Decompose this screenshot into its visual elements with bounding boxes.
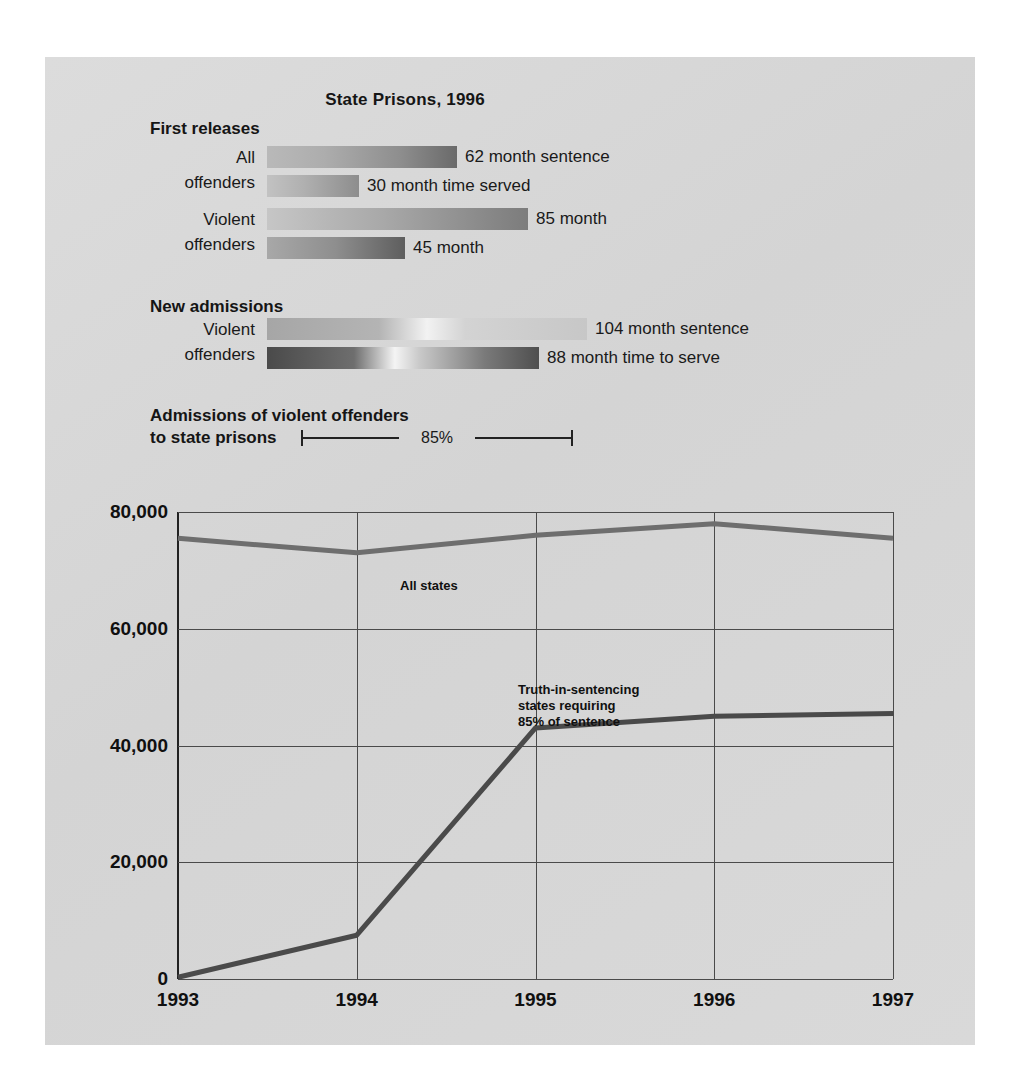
plot-area: 020,00040,00060,00080,000 19931994199519… (178, 512, 893, 979)
series-label-all-states: All states (400, 578, 458, 594)
bar-violent-offenders-sentence (267, 208, 528, 230)
bar-new-admissions-sentence (267, 318, 587, 340)
figure-panel: State Prisons, 1996 First releases All o… (45, 57, 975, 1045)
x-tick-label-1994: 1994 (336, 989, 378, 1011)
y-tick-label-0: 0 (157, 968, 168, 990)
x-tick-label-1997: 1997 (872, 989, 914, 1011)
y-tick-label-20000: 20,000 (110, 851, 168, 873)
row-label-violent-offenders-releases: Violent offenders (100, 207, 255, 257)
bar-value-all-offenders-sentence: 62 month sentence (465, 146, 610, 168)
line-chart-block: Admissions of violent offenders to state… (45, 387, 975, 1027)
y-tick-label-40000: 40,000 (110, 735, 168, 757)
y-tick-label-60000: 60,000 (110, 618, 168, 640)
series-lines (178, 512, 893, 979)
bar-value-new-admissions-time-to-serve: 88 month time to serve (547, 347, 720, 369)
series-truth-in-sentencing-line (178, 713, 893, 977)
bar-chart-block: State Prisons, 1996 First releases All o… (45, 57, 975, 407)
row-label-violent-offenders-admissions: Violent offenders (100, 317, 255, 367)
x-tick-label-1993: 1993 (157, 989, 199, 1011)
y-tick-label-80000: 80,000 (110, 501, 168, 523)
bar-all-offenders-sentence (267, 146, 457, 168)
bar-new-admissions-time-to-serve (267, 347, 539, 369)
bar-value-violent-offenders-time-served: 45 month (413, 237, 484, 259)
bar-value-violent-offenders-sentence: 85 month (536, 208, 607, 230)
series-all-states-line (178, 524, 893, 553)
x-tick-label-1995: 1995 (514, 989, 556, 1011)
group-heading-new-admissions: New admissions (150, 297, 283, 317)
bar-value-all-offenders-time-served: 30 month time served (367, 175, 530, 197)
bar-all-offenders-time-served (267, 175, 359, 197)
bar-violent-offenders-time-served (267, 237, 405, 259)
figure-title: State Prisons, 1996 (45, 90, 765, 110)
bar-value-new-admissions-sentence: 104 month sentence (595, 318, 749, 340)
group-heading-first-releases: First releases (150, 119, 260, 139)
line-chart-title: Admissions of violent offenders to state… (150, 405, 409, 449)
gridline-x-1997 (893, 512, 894, 979)
series-label-truth-in-sentencing: Truth-in-sentencing states requiring 85%… (518, 682, 639, 730)
gridline-y-0 (178, 979, 893, 980)
row-label-all-offenders: All offenders (100, 145, 255, 195)
x-tick-label-1996: 1996 (693, 989, 735, 1011)
